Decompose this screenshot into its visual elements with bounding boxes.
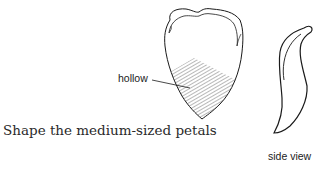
petal-diagram: hollow Shape the medium-sized petals sid…: [0, 0, 328, 169]
side-view-petal: [274, 26, 312, 133]
side-view-label: side view: [268, 150, 311, 162]
hollow-label: hollow: [118, 72, 148, 84]
hollow-hatched-region: [160, 58, 240, 120]
front-view-petal: [160, 9, 243, 120]
figure-caption: Shape the medium-sized petals: [3, 122, 217, 138]
petal-illustration: [0, 0, 328, 169]
